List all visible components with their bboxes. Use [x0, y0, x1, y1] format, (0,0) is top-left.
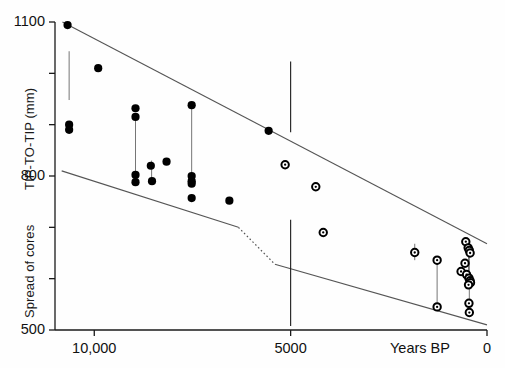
y-axis-label-lower: Spread of cores [22, 225, 37, 318]
x-tick-label-5000: 5000 [246, 340, 336, 356]
axis-layer [49, 22, 487, 336]
x-axis-label: Years BP [390, 340, 450, 356]
y-tick-label-500: 500 [0, 321, 45, 337]
y-tick-label-1100: 1100 [0, 13, 45, 29]
envelope-layer [62, 22, 487, 325]
y-tick-label-800: 800 [0, 167, 45, 183]
data-marker-layer [63, 21, 474, 316]
x-tick-label-0: 0 [442, 340, 505, 356]
chart-figure: TIP-TO-TIP (mm) Spread of cores 1100 800… [0, 0, 505, 368]
scatter-plot-canvas [0, 0, 505, 368]
error-bar-layer [69, 51, 469, 305]
x-tick-label-10000: 10,000 [49, 340, 139, 356]
